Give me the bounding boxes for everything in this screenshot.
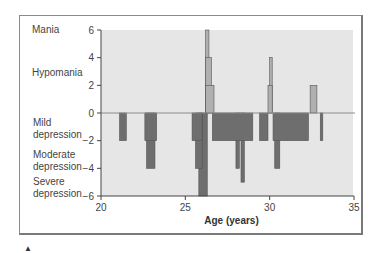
x-tick-label: 25 (180, 202, 192, 213)
arrow-icon: ▲ (24, 244, 32, 253)
x-tick-label: 35 (348, 202, 360, 213)
y-tick-label: −4 (83, 163, 95, 174)
y-tick-label: −2 (83, 135, 95, 146)
x-tick-label: 30 (264, 202, 276, 213)
episode-bar (320, 113, 323, 141)
x-axis-title: Age (years) (204, 215, 258, 226)
y-tick-label: −6 (83, 191, 95, 202)
episode-bar (120, 113, 127, 141)
episode-bar (206, 85, 214, 113)
y-tick-label: 2 (88, 80, 94, 91)
episode-bar (310, 85, 317, 113)
episode-bar (260, 113, 268, 141)
x-tick-label: 20 (95, 202, 107, 213)
episode-bar (212, 113, 252, 141)
y-tick-label: 6 (88, 25, 94, 36)
episode-bar (145, 113, 157, 141)
mood-chart: 6420−2−4−620253035Age (years) (0, 0, 382, 253)
episode-bar (192, 113, 202, 141)
y-tick-label: 0 (88, 108, 94, 119)
y-tick-label: 4 (88, 52, 94, 63)
episode-bar (273, 113, 308, 141)
episode-bar (268, 85, 272, 113)
